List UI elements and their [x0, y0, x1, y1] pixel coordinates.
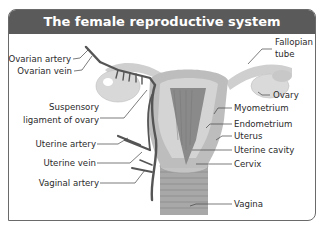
- label-endometrium: Endometrium: [234, 119, 292, 129]
- label-ovary: Ovary: [273, 90, 299, 100]
- label-uterine-artery: Uterine artery: [36, 139, 96, 149]
- label-uterine-vein: Uterine vein: [43, 158, 96, 168]
- label-fallopian-tube-line2: tube: [275, 49, 295, 59]
- label-suspensory-ligament-line1: Suspensory: [49, 102, 99, 112]
- label-uterus: Uterus: [234, 131, 262, 141]
- label-cervix: Cervix: [234, 159, 261, 169]
- label-vagina: Vagina: [234, 199, 263, 209]
- label-uterine-cavity: Uterine cavity: [234, 145, 294, 155]
- label-myometrium: Myometrium: [234, 103, 289, 113]
- label-ovarian-vein: Ovarian vein: [17, 66, 72, 76]
- label-vaginal-artery: Vaginal artery: [39, 178, 99, 188]
- label-fallopian-tube-line1: Fallopian: [275, 37, 313, 47]
- uterus-shape: [148, 70, 228, 169]
- label-ovarian-artery: Ovarian artery: [8, 54, 71, 64]
- label-suspensory-ligament-line2: ligament of ovary: [23, 115, 99, 125]
